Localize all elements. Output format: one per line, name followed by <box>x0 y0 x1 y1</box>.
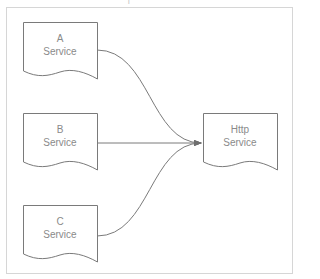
node-a-label-line1: A <box>23 32 97 45</box>
node-b-label-line2: Service <box>23 136 97 149</box>
node-http-label: Http Service <box>203 123 277 149</box>
edge-c-to-http[interactable] <box>97 143 201 236</box>
node-b-label-line1: B <box>23 123 97 136</box>
node-c-label-line1: C <box>23 215 97 228</box>
node-b-label: B Service <box>23 123 97 149</box>
node-a-label: A Service <box>23 32 97 58</box>
node-c-label-line2: Service <box>23 228 97 241</box>
node-c-label: C Service <box>23 215 97 241</box>
edge-a-to-http[interactable] <box>97 50 201 143</box>
node-http-label-line1: Http <box>203 123 277 136</box>
node-a-label-line2: Service <box>23 45 97 58</box>
node-http-label-line2: Service <box>203 136 277 149</box>
